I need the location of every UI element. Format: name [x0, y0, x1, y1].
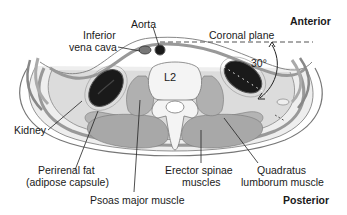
label-perirenal-line1: Perirenal fat: [38, 164, 95, 176]
label-vertebra: L2: [164, 71, 176, 83]
label-psoas: Psoas major muscle: [90, 194, 185, 206]
aorta: [155, 45, 165, 55]
label-aorta: Aorta: [131, 18, 156, 30]
label-coronal-plane: Coronal plane: [209, 29, 274, 41]
label-erector-line2: muscles: [182, 176, 221, 188]
label-perirenal-line2: (adipose capsule): [26, 176, 109, 188]
label-quadratus-line1: Quadratus: [257, 164, 306, 176]
label-kidney: Kidney: [14, 124, 46, 136]
label-angle: 30°: [251, 57, 267, 69]
inferior-vena-cava: [139, 46, 151, 54]
label-erector-line1: Erector spinae: [165, 164, 233, 176]
label-ivc-line2: vena cava: [69, 41, 117, 53]
label-ivc-line1: Inferior: [83, 29, 116, 41]
label-quadratus-line2: lumborum muscle: [241, 176, 324, 188]
label-posterior: Posterior: [283, 194, 329, 206]
label-anterior: Anterior: [290, 15, 331, 27]
